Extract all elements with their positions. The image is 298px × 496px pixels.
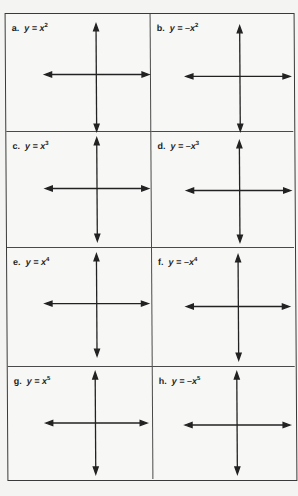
y-axis-down-arrow-icon	[237, 235, 242, 242]
y-axis-up-arrow-icon	[94, 24, 99, 31]
x-axis-right-arrow-icon	[284, 188, 291, 193]
x-axis-right-arrow-icon	[282, 304, 289, 309]
x-axis-left-arrow-icon	[186, 304, 193, 309]
y-axis-up-arrow-icon	[94, 138, 99, 145]
function-graph-worksheet: a.y = x2 b.y = –x2	[5, 13, 298, 481]
coordinate-axes	[7, 248, 152, 366]
graph-cell-c: c.y = x3	[6, 132, 152, 248]
coordinate-axes	[151, 14, 294, 131]
x-axis-left-arrow-icon	[45, 186, 52, 191]
y-axis-down-arrow-icon	[94, 124, 99, 131]
x-axis-right-arrow-icon	[283, 74, 290, 79]
y-axis	[237, 375, 238, 471]
y-axis-down-arrow-icon	[95, 349, 100, 356]
x-axis-left-arrow-icon	[187, 188, 194, 193]
y-axis	[239, 144, 240, 239]
graph-cell-e: e.y = x4	[7, 248, 153, 367]
x-axis-right-arrow-icon	[142, 72, 149, 77]
graph-cell-g: g.y = x5	[8, 367, 154, 479]
y-axis-up-arrow-icon	[237, 141, 242, 148]
coordinate-axes	[6, 14, 151, 131]
x-axis-left-arrow-icon	[186, 74, 193, 79]
coordinate-axes	[152, 248, 295, 366]
graph-cell-a: a.y = x2	[6, 14, 152, 132]
y-axis	[240, 29, 241, 128]
x-axis-right-arrow-icon	[283, 423, 290, 428]
y-axis-down-arrow-icon	[93, 467, 98, 474]
x-axis-left-arrow-icon	[46, 421, 53, 426]
y-axis-down-arrow-icon	[238, 124, 243, 131]
coordinate-axes	[6, 132, 151, 247]
y-axis-down-arrow-icon	[235, 467, 240, 474]
x-axis-right-arrow-icon	[141, 301, 148, 306]
y-axis	[97, 141, 98, 238]
graph-cell-b: b.y = –x2	[151, 14, 294, 132]
y-axis-up-arrow-icon	[94, 254, 99, 261]
x-axis-right-arrow-icon	[140, 421, 147, 426]
graph-cell-d: d.y = –x3	[151, 132, 294, 248]
x-axis-right-arrow-icon	[142, 186, 149, 191]
y-axis-up-arrow-icon	[236, 255, 241, 262]
y-axis-up-arrow-icon	[237, 26, 242, 33]
x-axis-left-arrow-icon	[185, 423, 192, 428]
graph-cell-h: h.y = –x5	[153, 367, 296, 479]
coordinate-axes	[153, 367, 296, 479]
y-axis-down-arrow-icon	[95, 234, 100, 241]
coordinate-axes	[151, 132, 294, 247]
y-axis	[238, 258, 239, 357]
y-axis	[96, 257, 97, 353]
y-axis	[95, 375, 96, 471]
x-axis-left-arrow-icon	[45, 301, 52, 306]
y-axis-up-arrow-icon	[234, 372, 239, 379]
y-axis-down-arrow-icon	[236, 353, 241, 360]
graph-cell-f: f.y = –x4	[152, 248, 295, 367]
x-axis-left-arrow-icon	[45, 72, 52, 77]
coordinate-axes	[8, 367, 153, 479]
y-axis-up-arrow-icon	[93, 372, 98, 379]
y-axis	[96, 27, 97, 128]
